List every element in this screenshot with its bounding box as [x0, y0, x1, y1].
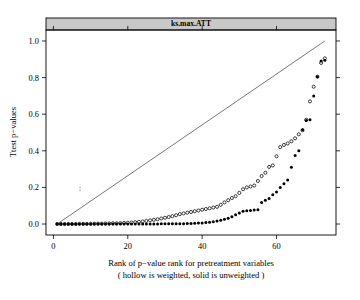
y-axis-title: Ttest p−values	[8, 106, 18, 157]
data-point-weighted	[175, 214, 178, 217]
data-point-unweighted	[286, 179, 289, 182]
x-axis-title: Rank of p−value rank for pretreatment va…	[108, 258, 274, 268]
y-tick-label: 0.0	[29, 220, 39, 229]
data-point-weighted	[193, 210, 196, 213]
data-point-unweighted	[227, 217, 230, 220]
data-point-weighted	[234, 195, 237, 198]
data-point-unweighted	[115, 223, 118, 226]
data-point-weighted	[163, 216, 166, 219]
data-point-unweighted	[323, 59, 326, 62]
data-point-unweighted	[190, 222, 193, 225]
data-point-unweighted	[137, 223, 140, 226]
data-point-unweighted	[238, 212, 241, 215]
data-point-unweighted	[167, 222, 170, 225]
data-point-unweighted	[104, 223, 107, 226]
data-point-unweighted	[253, 209, 256, 212]
data-point-unweighted	[134, 223, 137, 226]
x-tick-label: 40	[198, 242, 206, 251]
data-point-unweighted	[212, 220, 215, 223]
data-point-unweighted	[108, 223, 111, 226]
data-point-weighted	[223, 201, 226, 204]
data-point-weighted	[245, 186, 248, 189]
series-unweighted-points	[56, 59, 327, 226]
data-point-weighted	[286, 142, 289, 145]
data-point-unweighted	[82, 223, 85, 226]
data-point-unweighted	[204, 221, 207, 224]
data-point-weighted	[256, 179, 259, 182]
data-point-unweighted	[279, 186, 282, 189]
data-point-unweighted	[78, 223, 81, 226]
data-point-weighted	[156, 218, 159, 221]
data-point-weighted	[186, 211, 189, 214]
x-tick-label: 20	[124, 242, 132, 251]
data-point-unweighted	[290, 166, 293, 169]
data-point-unweighted	[63, 223, 66, 226]
y-tick-label: 1.0	[29, 37, 39, 46]
data-point-weighted	[230, 196, 233, 199]
y-tick-labels: 0.00.20.40.60.81.0	[29, 37, 40, 229]
data-point-unweighted	[186, 222, 189, 225]
data-point-unweighted	[219, 219, 222, 222]
data-point-unweighted	[230, 215, 233, 218]
data-point-unweighted	[208, 221, 211, 224]
data-point-unweighted	[264, 199, 267, 202]
data-point-unweighted	[193, 222, 196, 225]
data-point-unweighted	[320, 60, 323, 63]
data-point-unweighted	[223, 218, 226, 221]
data-point-unweighted	[308, 118, 311, 121]
data-point-weighted	[268, 165, 271, 168]
data-point-unweighted	[260, 201, 263, 204]
data-point-weighted	[204, 207, 207, 210]
data-point-unweighted	[297, 149, 300, 152]
series-weighted-points	[56, 57, 327, 226]
data-point-unweighted	[89, 223, 92, 226]
data-point-weighted	[271, 164, 274, 167]
data-point-unweighted	[160, 222, 163, 225]
data-point-unweighted	[245, 209, 248, 212]
data-point-weighted	[308, 100, 311, 103]
data-point-weighted	[242, 188, 245, 191]
data-point-unweighted	[249, 209, 252, 212]
data-point-unweighted	[67, 223, 70, 226]
strip-title-label: ks.max.ATT	[171, 19, 211, 28]
x-tick-label: 60	[272, 242, 280, 251]
data-point-unweighted	[56, 223, 59, 226]
data-point-unweighted	[74, 223, 77, 226]
data-point-unweighted	[305, 119, 308, 122]
data-point-unweighted	[145, 223, 148, 226]
panel-strip-header: ks.max.ATT	[46, 18, 336, 30]
x-tick-labels: 0204060	[51, 242, 280, 251]
data-point-unweighted	[216, 220, 219, 223]
data-point-weighted	[201, 208, 204, 211]
data-point-unweighted	[130, 223, 133, 226]
data-point-unweighted	[301, 128, 304, 131]
data-point-weighted	[145, 219, 148, 222]
data-point-weighted	[160, 217, 163, 220]
data-point-weighted	[215, 205, 218, 208]
data-point-unweighted	[123, 223, 126, 226]
data-point-weighted	[249, 185, 252, 188]
data-point-weighted	[152, 218, 155, 221]
data-point-weighted	[189, 210, 192, 213]
data-point-weighted	[227, 199, 230, 202]
data-point-unweighted	[312, 94, 315, 97]
data-point-unweighted	[126, 223, 129, 226]
y-tick-label: 0.4	[29, 147, 40, 156]
data-point-unweighted	[85, 223, 88, 226]
y-tick-label: 0.8	[29, 74, 39, 83]
data-point-weighted	[208, 207, 211, 210]
scatter-plot: ks.max.ATT 0204060 0.00.20.40.60.81.0 Tt…	[0, 0, 360, 300]
data-point-unweighted	[271, 193, 274, 196]
stray-mark-artifact	[80, 187, 81, 191]
data-point-weighted	[238, 191, 241, 194]
data-point-unweighted	[175, 222, 178, 225]
data-point-unweighted	[294, 154, 297, 157]
data-point-weighted	[178, 213, 181, 216]
data-point-weighted	[264, 171, 267, 174]
data-point-unweighted	[242, 210, 245, 213]
x-axis-subtitle: ( hollow is weighted, solid is unweighte…	[118, 270, 265, 280]
data-point-weighted	[279, 146, 282, 149]
data-point-unweighted	[275, 190, 278, 193]
data-point-weighted	[260, 175, 263, 178]
data-point-weighted	[290, 140, 293, 143]
